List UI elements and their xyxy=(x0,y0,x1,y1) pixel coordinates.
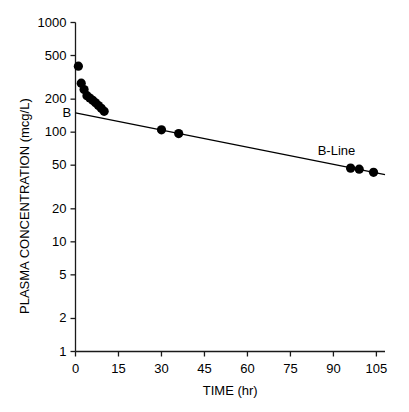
x-tick-label: 45 xyxy=(184,362,224,375)
x-tick-label: 30 xyxy=(141,362,181,375)
chart-axes xyxy=(71,23,386,357)
y-tick-label: 1 xyxy=(59,345,66,358)
y-tick-label: 200 xyxy=(45,92,67,105)
x-tick-label: 60 xyxy=(227,362,267,375)
x-tick-label: 75 xyxy=(270,362,310,375)
x-axis-title: TIME (hr) xyxy=(56,384,406,397)
plasma-concentration-chart: 1251020501002005001000 0153045607590105 … xyxy=(0,0,409,412)
b-intercept-label: B xyxy=(63,106,72,119)
y-tick-label: 2 xyxy=(59,311,66,324)
y-tick-label: 5 xyxy=(59,268,66,281)
x-tick-label: 90 xyxy=(313,362,353,375)
x-tick-label: 0 xyxy=(56,362,96,375)
data-point-series xyxy=(74,62,378,177)
x-tick-label: 105 xyxy=(356,362,396,375)
y-tick-label: 100 xyxy=(45,125,67,138)
y-tick-label: 20 xyxy=(52,202,66,215)
y-tick-label: 50 xyxy=(52,158,66,171)
y-axis-title: PLASMA CONCENTRATION (mcg/L) xyxy=(18,98,31,314)
y-tick-label: 500 xyxy=(45,49,67,62)
y-tick-label: 10 xyxy=(52,235,66,248)
y-tick-label: 1000 xyxy=(38,16,67,29)
b-line-label: B-Line xyxy=(318,144,356,157)
x-tick-label: 15 xyxy=(98,362,138,375)
